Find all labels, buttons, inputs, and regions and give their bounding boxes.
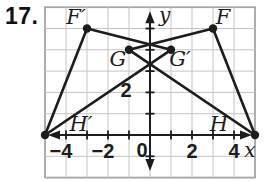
x-tick-label: 4 [228,140,240,162]
x-axis-label: x [244,138,255,162]
vertex-label-H: H [209,112,229,136]
vertex-label-F: F [215,5,232,29]
x-tick-label: −2 [92,140,115,162]
vertex-label-F′: F′ [65,5,86,29]
vertex-dot-H [251,131,259,139]
vertex-label-G: G [110,47,127,71]
coordinate-grid-figure: −4−22420xyFGHF′G′H′ [0,0,264,181]
x-tick-label: −4 [50,140,74,162]
origin-label: 0 [136,139,147,161]
vertex-label-H′: H′ [68,112,92,136]
vertex-label-G′: G′ [169,47,191,71]
y-axis-label: y [158,3,171,27]
page: 17. −4−22420xyFGHF′G′H′ [0,0,264,181]
x-tick-label: 2 [186,140,197,162]
vertex-dot-H′ [41,131,49,139]
